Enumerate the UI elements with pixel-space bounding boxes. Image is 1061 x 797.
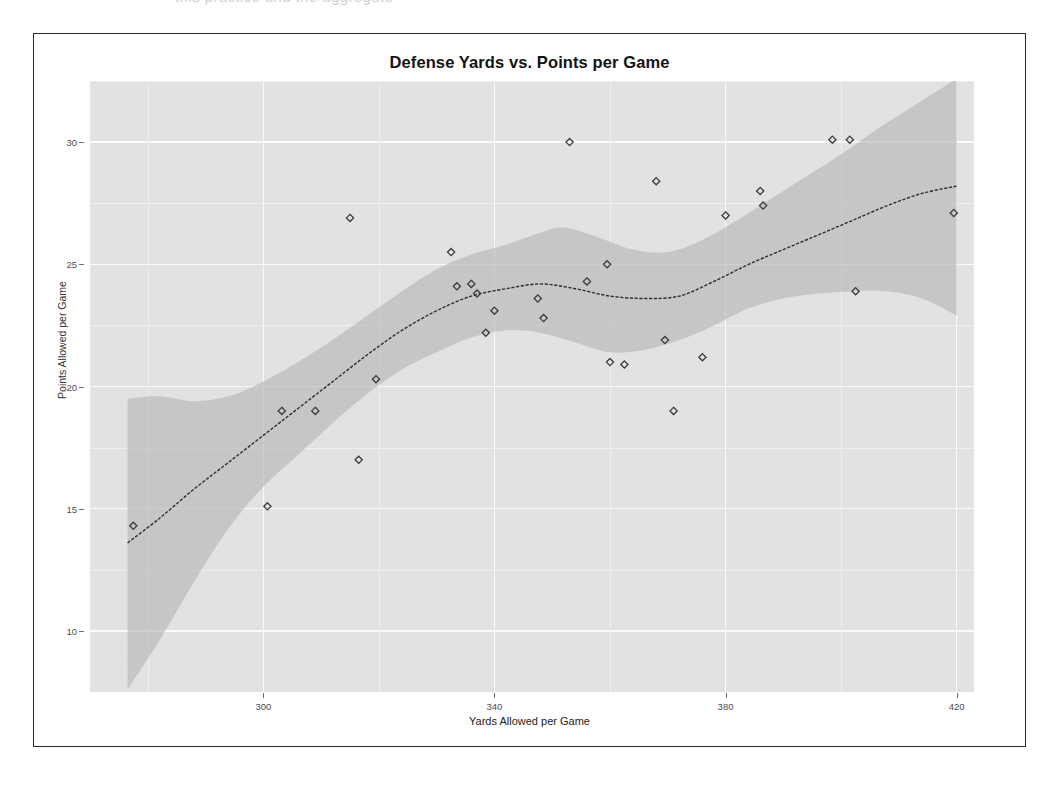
data-point xyxy=(346,214,353,221)
y-tick-label-15: 15 xyxy=(66,503,77,514)
x-tick-label-420: 420 xyxy=(949,701,965,712)
data-point xyxy=(566,139,573,146)
plot-panel xyxy=(90,81,974,692)
data-point xyxy=(757,187,764,194)
data-point xyxy=(852,288,859,295)
data-point xyxy=(372,376,379,383)
data-point xyxy=(453,283,460,290)
y-tick-mark-20 xyxy=(79,387,84,388)
y-tick-mark-30 xyxy=(79,142,84,143)
x-axis: 300340380420 xyxy=(90,693,974,715)
data-point xyxy=(722,212,729,219)
y-tick-mark-25 xyxy=(79,264,84,265)
scatter-points xyxy=(90,81,974,692)
x-tick-label-340: 340 xyxy=(487,701,503,712)
data-point xyxy=(606,359,613,366)
data-point xyxy=(312,407,319,414)
x-axis-title: Yards Allowed per Game xyxy=(34,715,1025,727)
data-point xyxy=(474,290,481,297)
data-point xyxy=(534,295,541,302)
figure-frame: Defense Yards vs. Points per Game 302520… xyxy=(33,33,1026,747)
data-point xyxy=(621,361,628,368)
x-tick-label-380: 380 xyxy=(718,701,734,712)
data-point xyxy=(583,278,590,285)
page-top-cut-text: this practice and the aggregate xyxy=(175,0,695,10)
x-tick-mark-380 xyxy=(726,693,727,698)
x-tick-mark-300 xyxy=(263,693,264,698)
data-point xyxy=(130,522,137,529)
data-point xyxy=(604,261,611,268)
data-point xyxy=(491,307,498,314)
data-point xyxy=(950,209,957,216)
y-tick-mark-15 xyxy=(79,509,84,510)
data-point xyxy=(846,136,853,143)
x-tick-label-300: 300 xyxy=(255,701,271,712)
data-point xyxy=(264,503,271,510)
y-tick-mark-10 xyxy=(79,631,84,632)
y-tick-label-30: 30 xyxy=(66,137,77,148)
data-point xyxy=(448,249,455,256)
page-top-cut-text-value: this practice and the aggregate xyxy=(175,0,695,4)
y-tick-label-25: 25 xyxy=(66,259,77,270)
data-point xyxy=(670,407,677,414)
y-axis-title: Points Allowed per Game xyxy=(56,260,68,420)
data-point xyxy=(355,456,362,463)
data-point xyxy=(699,354,706,361)
data-point xyxy=(540,315,547,322)
data-point xyxy=(468,280,475,287)
chart-title: Defense Yards vs. Points per Game xyxy=(34,53,1025,72)
data-point xyxy=(482,329,489,336)
data-point xyxy=(278,407,285,414)
data-point xyxy=(829,136,836,143)
x-tick-mark-420 xyxy=(957,693,958,698)
data-point xyxy=(661,337,668,344)
data-point xyxy=(653,178,660,185)
data-point xyxy=(760,202,767,209)
y-tick-label-10: 10 xyxy=(66,625,77,636)
x-tick-mark-340 xyxy=(494,693,495,698)
y-tick-label-20: 20 xyxy=(66,381,77,392)
